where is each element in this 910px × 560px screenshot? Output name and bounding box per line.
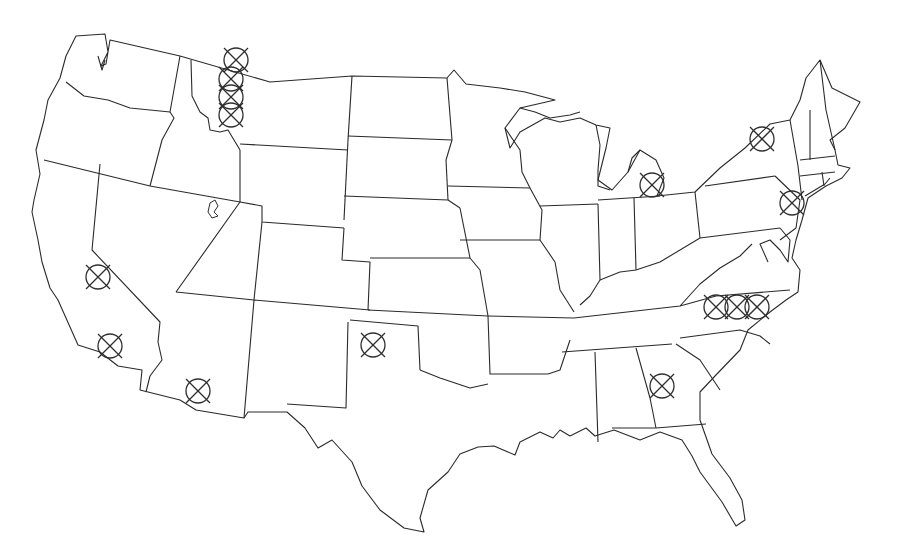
us-outline	[32, 34, 860, 532]
us-map	[0, 0, 910, 560]
